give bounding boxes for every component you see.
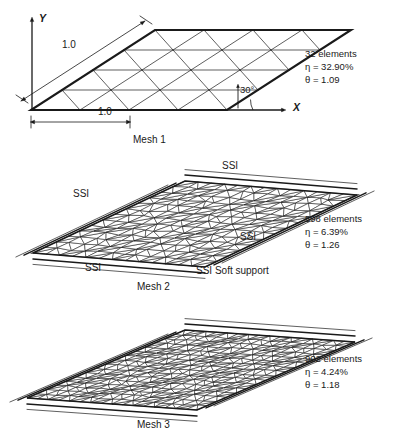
mesh-1-diagonal [93,70,111,90]
mesh-1-caption: Mesh 1 [133,134,166,145]
mesh-1-diagonal [155,30,173,50]
mesh-1-diagonal [222,50,240,70]
ssi-label-right: SSI [240,231,256,242]
mesh-1-diagonal [204,30,222,50]
ssi-label-top: SSI [222,160,238,171]
mesh-1-diagonal [191,70,209,90]
mesh-1-diagonal [209,90,227,110]
soft-support-band-top [185,319,355,331]
mesh-2-theta: θ = 1.26 [305,238,362,251]
arrow-head [140,21,145,25]
skew-angle-label: 30° [240,84,254,95]
mesh-1-diagram [16,16,351,128]
y-axis-label: Y [39,12,46,24]
mesh-2-stats: 598 elements η = 6.39% θ = 1.26 [305,212,362,251]
ssi-label-bottom: SSI [85,262,101,273]
mesh-1-diagonal [124,50,142,70]
dimension-tick [16,95,28,103]
angle-arc [250,100,253,111]
soft-support-band-bottom [27,409,197,421]
mesh-1-stats: 32 elements η = 32.90% θ = 1.09 [305,47,357,86]
ssi-legend: SSI Soft support [196,265,269,276]
mesh-2-caption: Mesh 2 [137,281,170,292]
mesh-1-theta: θ = 1.09 [305,73,357,86]
arrow-head [30,17,34,22]
mesh-1-diagonal [111,90,129,110]
mesh-1-elements: 32 elements [305,47,357,60]
x-axis-label: X [293,101,300,113]
dimension-label-top: 1.0 [62,39,76,50]
mesh-2-elements: 598 elements [305,212,362,225]
mesh-3-stats: 902 elements η = 4.24% θ = 1.18 [305,352,362,391]
ssi-label-left: SSI [73,188,89,199]
mesh-2-eta: η = 6.39% [305,225,362,238]
mesh-1-diagonal [160,90,178,110]
mesh-1-diagonal [253,30,271,50]
mesh-1-diagonal [142,70,160,90]
mesh-3-elements: 902 elements [305,352,362,365]
mesh-1-eta: η = 32.90% [305,60,357,73]
mesh-1-diagonal [62,90,80,110]
mesh-1-diagonal [173,50,191,70]
arrow-head [281,108,286,112]
mesh-3-eta: η = 4.24% [305,365,362,378]
mesh-1-diagonal [271,50,289,70]
mesh-3-theta: θ = 1.18 [305,378,362,391]
dimension-line-top [21,21,145,101]
mesh-3-caption: Mesh 3 [137,419,170,430]
dimension-label-bottom: 1.0 [98,106,112,117]
